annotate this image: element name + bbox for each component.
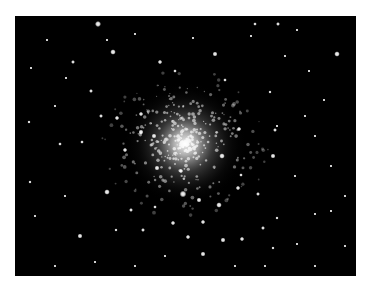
star — [28, 180, 31, 183]
star — [71, 60, 75, 64]
star — [171, 221, 175, 225]
star — [64, 195, 67, 198]
star — [104, 139, 106, 141]
star — [58, 142, 62, 146]
star — [215, 209, 219, 213]
star — [89, 89, 93, 93]
star — [115, 116, 119, 120]
star — [109, 168, 111, 170]
star — [241, 186, 243, 188]
star — [304, 115, 307, 118]
star — [218, 89, 220, 91]
star — [344, 245, 347, 248]
star — [296, 243, 299, 246]
star — [237, 127, 241, 131]
star — [255, 151, 258, 154]
star — [249, 151, 252, 154]
star — [284, 55, 287, 58]
star — [330, 165, 333, 168]
star — [119, 112, 123, 116]
star — [200, 251, 205, 256]
star — [220, 237, 225, 242]
star — [256, 192, 260, 196]
star — [267, 149, 269, 151]
star — [120, 125, 124, 129]
star — [323, 99, 326, 102]
star — [94, 261, 97, 264]
star — [101, 137, 103, 139]
star — [179, 169, 183, 173]
star — [133, 98, 137, 102]
star — [46, 39, 49, 42]
star — [136, 93, 137, 94]
star — [140, 202, 143, 205]
star — [344, 195, 347, 198]
star — [250, 35, 253, 38]
star — [138, 129, 143, 134]
star — [123, 148, 127, 152]
star — [180, 191, 187, 198]
star — [189, 213, 193, 217]
star — [240, 237, 244, 241]
star — [216, 202, 222, 208]
star — [192, 37, 195, 40]
star — [115, 183, 117, 185]
star — [264, 265, 267, 268]
star — [239, 173, 243, 177]
star — [276, 125, 279, 128]
star — [134, 265, 137, 268]
star — [161, 71, 164, 74]
star — [114, 228, 117, 231]
star — [296, 29, 299, 32]
star — [191, 207, 193, 209]
star — [251, 130, 254, 133]
star — [294, 175, 297, 178]
star — [252, 156, 255, 159]
star — [271, 246, 274, 249]
star — [217, 78, 220, 81]
star — [273, 128, 277, 132]
star — [152, 211, 156, 215]
star — [157, 85, 159, 87]
star — [258, 121, 259, 122]
star — [239, 111, 242, 114]
star — [178, 72, 181, 75]
star — [249, 166, 252, 169]
star — [106, 39, 109, 42]
star — [196, 197, 201, 202]
star — [225, 199, 229, 203]
cluster-core-glow — [123, 82, 247, 206]
star — [134, 33, 137, 36]
star — [123, 96, 126, 99]
star — [141, 228, 145, 232]
star — [30, 67, 33, 70]
star — [238, 91, 240, 93]
star — [153, 205, 157, 209]
star — [330, 210, 333, 213]
star — [104, 189, 110, 195]
star — [223, 78, 227, 82]
star — [110, 49, 116, 55]
star — [235, 100, 239, 104]
star — [219, 153, 225, 159]
star — [276, 22, 280, 26]
star — [158, 60, 162, 64]
star — [54, 105, 57, 108]
star — [314, 135, 317, 138]
star-field — [15, 16, 356, 276]
star — [228, 194, 230, 196]
star — [27, 120, 30, 123]
star — [334, 51, 340, 57]
star — [246, 109, 249, 112]
star — [258, 143, 260, 145]
star — [34, 215, 37, 218]
star — [123, 165, 127, 169]
star — [268, 90, 271, 93]
star — [270, 153, 275, 158]
star — [201, 220, 205, 224]
star — [314, 265, 317, 268]
star — [54, 265, 57, 268]
star — [154, 165, 159, 170]
star — [186, 235, 190, 239]
star — [212, 51, 217, 56]
